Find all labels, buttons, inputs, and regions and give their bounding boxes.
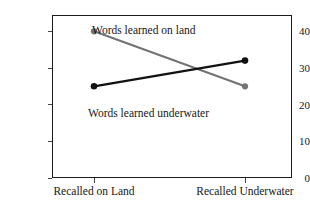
series-point-underwater-recalled-underwater: [242, 57, 249, 64]
annotation-words-learned-on-land: Words learned on land: [92, 24, 196, 37]
x-tick-mark-recalled-on-land: [94, 178, 95, 183]
x-tick-label-recalled-underwater: Recalled Underwater: [180, 185, 310, 198]
series-point-on-land-recalled-underwater: [242, 83, 248, 89]
series-point-underwater-recalled-on-land: [91, 83, 98, 90]
x-tick-mark-recalled-underwater: [245, 178, 246, 183]
x-tick-label-recalled-on-land: Recalled on Land: [34, 185, 154, 198]
series-line-words-learned-on-land: [94, 31, 245, 86]
y-tick-mark-0: [48, 178, 52, 179]
plot-area: [52, 15, 292, 178]
series-line-words-learned-underwater: [94, 61, 245, 87]
y-axis-title-container: Percent of Words Correctly Recalled: [0, 0, 22, 196]
annotation-words-learned-underwater: Words learned underwater: [88, 107, 209, 120]
y-axis-title: Percent of Words Correctly Recalled: [0, 0, 22, 22]
chart-figure: Percent of Words Correctly Recalled 40 3…: [0, 0, 310, 210]
